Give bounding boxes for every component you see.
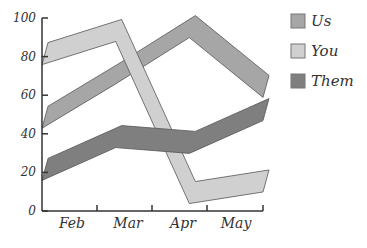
line-chart: 020406080100 FebMarAprMay UsYouThem [0, 0, 367, 248]
legend-label-us: Us [311, 12, 332, 30]
x-tick-label: May [220, 215, 253, 231]
legend-label-them: Them [311, 72, 354, 90]
y-tick-label: 100 [13, 11, 36, 25]
x-tick-label: Mar [112, 215, 144, 231]
legend: UsYouThem [291, 12, 354, 90]
x-tick-label: Apr [168, 215, 197, 231]
legend-swatch-them [291, 74, 305, 88]
y-tick-label: 20 [20, 165, 37, 179]
legend-swatch-you [291, 44, 305, 58]
legend-swatch-us [291, 14, 305, 28]
x-tick-label: Feb [58, 215, 85, 231]
legend-label-you: You [311, 42, 338, 60]
y-tick-label: 60 [21, 88, 37, 102]
y-tick-label: 40 [20, 127, 37, 141]
y-tick-label: 0 [28, 204, 36, 218]
y-tick-label: 80 [21, 50, 37, 64]
series-bands [42, 16, 269, 204]
